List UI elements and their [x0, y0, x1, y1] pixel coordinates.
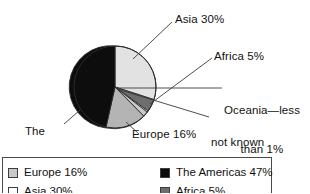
legend: Europe 16% The Americas 47% Asia 30% Afr…: [0, 157, 272, 193]
legend-label-the-americas: The Americas 47%: [176, 166, 273, 179]
legend-item-europe: Europe 16%: [8, 163, 160, 182]
leader-line-africa: [150, 58, 212, 104]
callout-europe: Europe 16%: [132, 128, 196, 141]
legend-swatch-the-americas: [160, 168, 170, 178]
legend-swatch-europe: [8, 168, 18, 178]
callout-the-americas-line1: The: [6, 125, 64, 138]
pie-slice-the-americas: [69, 46, 115, 128]
leader-line-asia: [133, 22, 172, 59]
legend-swatch-asia: [8, 187, 18, 194]
legend-item-the-americas: The Americas 47%: [160, 163, 280, 182]
legend-label-asia: Asia 30%: [24, 185, 73, 193]
legend-item-africa: Africa 5%: [160, 182, 280, 193]
callout-asia: Asia 30%: [175, 13, 224, 26]
legend-item-asia: Asia 30%: [8, 182, 160, 193]
callout-africa: Africa 5%: [214, 50, 264, 63]
legend-label-europe: Europe 16%: [24, 166, 87, 179]
leader-line-the-americas: [64, 110, 80, 124]
pie-chart-figure: Asia 30% Africa 5% Oceania—less than 1% …: [0, 0, 310, 193]
legend-label-africa: Africa 5%: [176, 185, 225, 193]
legend-swatch-africa: [160, 187, 170, 194]
callout-not-known-line1: not known: [211, 136, 264, 149]
